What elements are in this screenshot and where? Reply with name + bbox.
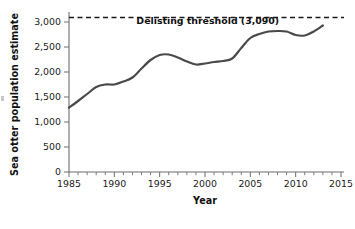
y-tick-label: 2,000 [34,66,61,77]
y-axis-tick-labels: 05001,0001,5002,0002,5003,000 [34,16,61,177]
x-axis-ticks [69,172,341,177]
line-chart: Delisting threshold (3,090) Year Sea ott… [0,0,355,229]
x-tick-label: 2015 [329,178,353,189]
x-tick-label: 1985 [57,178,81,189]
x-tick-label: 1990 [102,178,126,189]
y-axis-ticks [64,22,69,172]
delisting-threshold-label: Delisting threshold (3,090) [136,15,279,26]
y-tick-label: 1,000 [34,116,61,127]
y-tick-label: 3,000 [34,16,61,27]
x-axis-title: Year [192,195,217,206]
y-tick-label: 2,500 [34,41,61,52]
chart-figure: Delisting threshold (3,090) Year Sea ott… [0,0,355,229]
x-tick-label: 2010 [284,178,308,189]
x-axis-tick-labels: 1985199019952000200520102015 [57,178,353,189]
y-tick-label: 0 [55,166,61,177]
population-line-series [69,26,323,108]
x-tick-label: 2000 [193,178,217,189]
y-tick-label: 1,500 [34,91,61,102]
x-tick-label: 2005 [238,178,262,189]
x-tick-label: 1995 [148,178,172,189]
y-axis-title: Sea otter population estimate [9,13,20,176]
y-tick-label: 500 [43,141,61,152]
